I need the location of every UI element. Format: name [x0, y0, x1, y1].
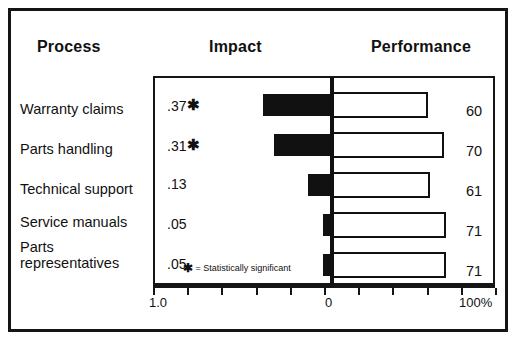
process-label-parts-handling: Parts handling [20, 141, 113, 157]
performance-value-parts-representatives: 71 [466, 263, 482, 279]
footnote-text: = Statistically significant [196, 263, 291, 273]
impact-value-label-3: .05 [167, 216, 186, 232]
impact-bar-warranty-claims [263, 94, 332, 116]
impact-value-label-0: .37✱ [167, 96, 200, 114]
significance-star-icon-1: ✱ [187, 136, 200, 153]
performance-value-technical-support: 61 [466, 183, 482, 199]
column-header-process: Process [37, 38, 101, 56]
performance-bar-service-manuals [332, 212, 446, 238]
chart-figure: Process Impact Performance Warranty clai… [0, 0, 518, 343]
performance-bar-technical-support [332, 172, 430, 198]
axis-label-zero: 0 [325, 295, 332, 310]
chart-row: .31✱ [155, 126, 493, 166]
significance-star-icon-0: ✱ [187, 96, 200, 113]
significance-footnote: ✱ = Statistically significant [183, 261, 291, 275]
axis-tick [427, 288, 429, 295]
axis-tick [495, 288, 497, 295]
impact-value-text-1: .31 [167, 138, 186, 154]
performance-bar-parts-representatives [332, 252, 446, 278]
chart-row: .13 [155, 166, 493, 206]
performance-bar-parts-handling [332, 132, 444, 158]
axis-tick [392, 288, 394, 295]
impact-value-text-0: .37 [167, 98, 186, 114]
axis-tick [153, 288, 155, 295]
axis-tick [290, 288, 292, 295]
impact-value-text-2: .13 [167, 176, 186, 192]
axis-label-left: 1.0 [149, 295, 167, 310]
impact-bar-technical-support [308, 174, 332, 196]
chart-row: .37✱ [155, 86, 493, 126]
zero-axis-line [330, 78, 334, 287]
process-label-technical-support: Technical support [20, 181, 133, 197]
performance-value-warranty-claims: 60 [466, 103, 482, 119]
axis-tick [358, 288, 360, 295]
performance-value-parts-handling: 70 [466, 143, 482, 159]
chart-row: .05 [155, 206, 493, 246]
performance-value-service-manuals: 71 [466, 223, 482, 239]
axis-tick [221, 288, 223, 295]
process-label-service-manuals: Service manuals [20, 214, 127, 230]
process-label-parts-representatives: Parts representatives [20, 239, 119, 271]
axis-tick [256, 288, 258, 295]
axis-tick [324, 288, 326, 295]
column-header-impact: Impact [209, 38, 262, 56]
impact-value-label-2: .13 [167, 176, 186, 192]
axis-tick [187, 288, 189, 295]
impact-value-text-3: .05 [167, 216, 186, 232]
horizontal-axis-line [153, 285, 495, 288]
impact-value-label-1: .31✱ [167, 136, 200, 154]
axis-tick [461, 288, 463, 295]
process-label-warranty-claims: Warranty claims [20, 101, 123, 117]
footnote-star-icon: ✱ [183, 261, 193, 275]
impact-bar-parts-handling [274, 134, 332, 156]
plot-area: .37✱ .31✱ .13 .05 .05 ✱ = S [153, 76, 495, 285]
performance-bar-warranty-claims [332, 92, 428, 118]
axis-label-right: 100% [459, 295, 492, 310]
column-header-performance: Performance [371, 38, 471, 56]
